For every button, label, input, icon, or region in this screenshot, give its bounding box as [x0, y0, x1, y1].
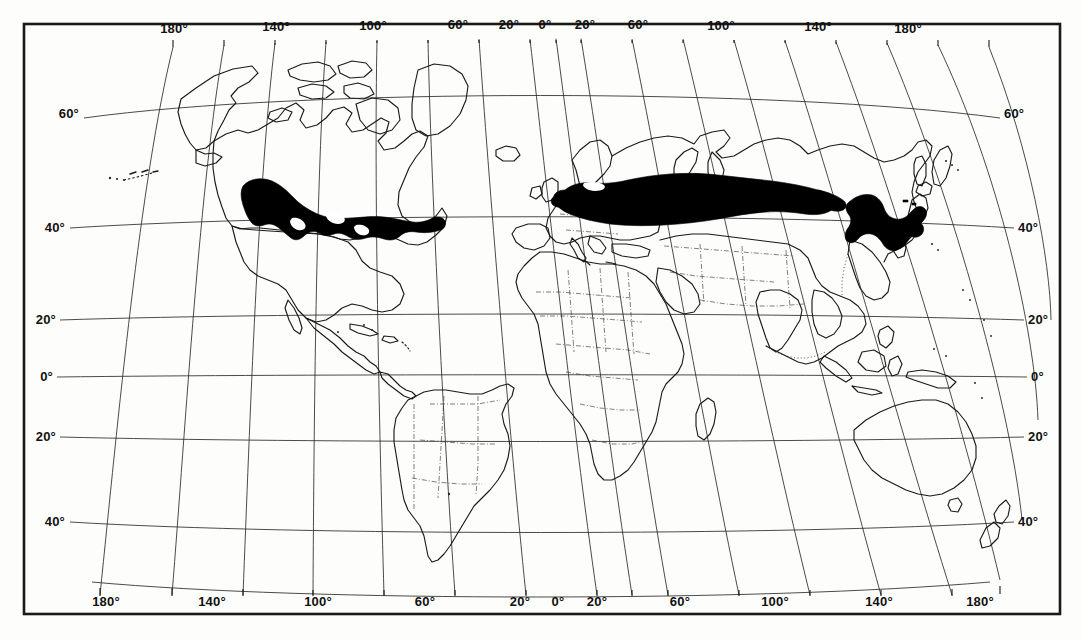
bottom-lon-label: 0° — [552, 594, 565, 609]
left-lat-label: 20° — [36, 429, 56, 444]
range-east-asia-honshu — [907, 222, 924, 238]
top-lon-label: 140° — [262, 19, 290, 34]
bottom-lon-label: 180° — [92, 594, 120, 609]
top-lon-label: 100° — [359, 18, 387, 33]
left-lat-label: 0° — [40, 369, 53, 384]
top-lon-label: 20° — [575, 17, 595, 32]
bottom-lon-label: 100° — [304, 594, 332, 609]
bottom-lon-label: 100° — [761, 594, 789, 609]
top-lon-label: 180° — [160, 21, 188, 36]
right-lat-label: 40° — [1018, 220, 1038, 235]
top-lon-label: 180° — [894, 21, 922, 36]
top-lon-label: 60° — [628, 17, 648, 32]
top-lon-label: 60° — [448, 17, 468, 32]
bottom-lon-label: 60° — [670, 594, 690, 609]
right-lat-label: 0° — [1031, 369, 1044, 384]
right-lat-label: 40° — [1018, 514, 1038, 529]
bottom-lon-label: 140° — [198, 594, 226, 609]
right-lat-label: 60° — [1004, 106, 1024, 121]
distribution-map-figure: 180° 140° 100° 60° 20° 0° 20° 60° 100° 1… — [0, 0, 1082, 640]
bottom-lon-label: 180° — [966, 594, 994, 609]
left-lat-label: 40° — [45, 514, 65, 529]
top-lon-label: 100° — [707, 18, 735, 33]
left-lat-label: 40° — [45, 220, 65, 235]
top-lon-label: 20° — [499, 17, 519, 32]
bottom-lon-label: 60° — [415, 594, 435, 609]
right-lat-label: 20° — [1028, 312, 1048, 327]
bottom-lon-label: 20° — [587, 594, 607, 609]
top-lon-label: 0° — [539, 17, 552, 32]
bottom-lon-label: 140° — [865, 594, 893, 609]
left-lat-label: 20° — [36, 312, 56, 327]
bottom-lon-label: 20° — [510, 594, 530, 609]
right-lat-label: 20° — [1028, 429, 1048, 444]
left-lat-label: 60° — [59, 106, 79, 121]
top-lon-label: 140° — [804, 19, 832, 34]
